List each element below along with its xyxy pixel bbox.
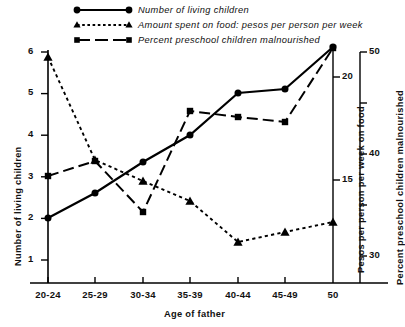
y-right-inner-tick-label-20: 20 <box>342 70 353 81</box>
y-left-tick-label-3: 3 <box>28 170 33 181</box>
y-axis-left-title: Number of living children <box>13 146 23 266</box>
x-tick-label-25-29: 25-29 <box>72 289 118 300</box>
x-tick-label-20-24: 20-24 <box>25 289 71 300</box>
y-right-inner-tick-label-15: 15 <box>342 173 353 184</box>
x-axis-title: Age of father <box>164 309 225 319</box>
y-left-tick-label-2: 2 <box>28 211 33 222</box>
x-tick-label-30-34: 30-34 <box>120 289 166 300</box>
x-tick-label-50: 50 <box>310 289 356 300</box>
y-left-tick-label-1: 1 <box>28 253 33 264</box>
series-markers-living-children <box>45 44 337 222</box>
y-axis-right-inner-title: Pesos per person per week on food <box>356 106 366 273</box>
x-tick-label-35-39: 35-39 <box>167 289 213 300</box>
y-left-tick-label-6: 6 <box>28 45 33 56</box>
series-line-malnourished <box>48 48 333 212</box>
y-right-outer-tick-label-40: 40 <box>369 147 380 158</box>
y-axis-right-outer-title: Percent preschool children malnourished <box>395 90 405 285</box>
series-markers-malnourished <box>45 45 336 215</box>
y-right-outer-tick-label-30: 30 <box>369 249 380 260</box>
y-left-tick-label-5: 5 <box>28 86 33 97</box>
x-tick-label-40-44: 40-44 <box>215 289 261 300</box>
y-left-tick-label-4: 4 <box>28 128 33 139</box>
y-right-outer-tick-label-50: 50 <box>369 45 380 56</box>
x-tick-label-45-49: 45-49 <box>262 289 308 300</box>
